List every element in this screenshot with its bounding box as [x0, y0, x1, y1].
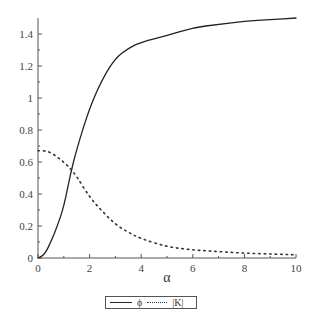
- legend-label-k: |K|: [172, 297, 183, 308]
- legend-solid-line-icon: [110, 302, 132, 303]
- x-tick-label: 0: [35, 262, 41, 274]
- series-lines: [38, 18, 296, 258]
- x-tick-label: 2: [87, 262, 93, 274]
- y-tick-label: 0.6: [19, 156, 33, 168]
- legend-label-phi: ϕ: [137, 297, 142, 308]
- x-tick-label: 6: [190, 262, 196, 274]
- legend: ϕ |K|: [105, 296, 197, 309]
- chart-plot-area: 024681000.20.40.60.811.21.4 α: [0, 0, 315, 324]
- y-tick-label: 0.4: [19, 188, 33, 200]
- x-tick-label: 10: [291, 262, 303, 274]
- y-tick-label: 0: [28, 252, 34, 264]
- k-curve: [38, 151, 296, 255]
- y-tick-label: 0.2: [19, 220, 33, 232]
- y-tick-label: 1.2: [19, 60, 33, 72]
- y-tick-label: 0.8: [19, 124, 33, 136]
- axes: 024681000.20.40.60.811.21.4: [19, 18, 302, 274]
- legend-dotted-line-icon: [147, 302, 167, 303]
- x-tick-label: 4: [138, 262, 144, 274]
- x-tick-label: 8: [242, 262, 248, 274]
- phi-curve: [38, 18, 296, 258]
- x-axis-label: α: [163, 270, 171, 285]
- y-tick-label: 1: [28, 92, 34, 104]
- y-tick-label: 1.4: [19, 28, 33, 40]
